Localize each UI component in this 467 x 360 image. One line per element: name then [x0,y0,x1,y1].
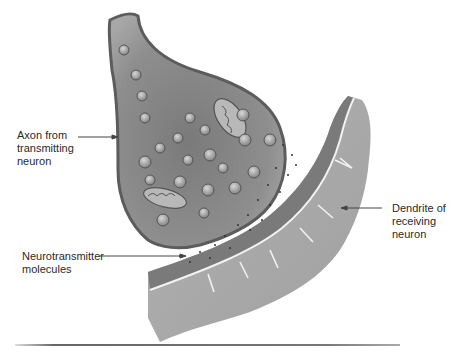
caption-divider [15,344,400,346]
label-dendrite: Dendrite of receiving neuron [392,202,446,241]
synapse-illustration [0,0,467,360]
axon-terminal-shape [109,14,285,248]
label-axon: Axon from transmitting neuron [17,129,74,168]
label-neurotransmitter: Neurotransmitter molecules [22,250,104,276]
